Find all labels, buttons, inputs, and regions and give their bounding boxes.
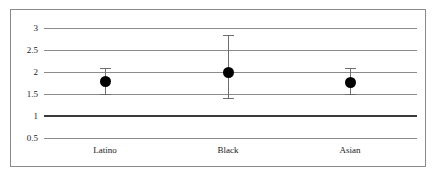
error-bar-cap-lower bbox=[100, 94, 111, 95]
x-axis-tick-label: Asian bbox=[305, 145, 395, 155]
gridline bbox=[44, 50, 417, 51]
data-point-marker bbox=[100, 76, 111, 87]
y-axis-tick-label: 2.5 bbox=[4, 45, 38, 55]
y-axis-tick-label: 0.5 bbox=[4, 133, 38, 143]
error-bar-cap-upper bbox=[100, 68, 111, 69]
gridline bbox=[44, 138, 417, 139]
y-axis-tick-label: 2 bbox=[4, 67, 38, 77]
reference-line bbox=[44, 115, 417, 117]
gridline bbox=[44, 28, 417, 29]
error-bar-cap-upper bbox=[223, 35, 234, 36]
y-axis-tick-label: 1 bbox=[4, 111, 38, 121]
x-axis-tick-label: Black bbox=[183, 145, 273, 155]
x-axis-tick-label: Latino bbox=[60, 145, 150, 155]
error-bar-cap-lower bbox=[223, 98, 234, 99]
chart-figure: 32.521.510.5LatinoBlackAsian bbox=[0, 0, 437, 179]
error-bar-cap-lower bbox=[345, 94, 356, 95]
y-axis-tick-label: 3 bbox=[4, 23, 38, 33]
plot-area: 32.521.510.5LatinoBlackAsian bbox=[0, 0, 437, 179]
data-point-marker bbox=[223, 67, 234, 78]
error-bar-cap-upper bbox=[345, 68, 356, 69]
y-axis-tick-label: 1.5 bbox=[4, 89, 38, 99]
data-point-marker bbox=[345, 77, 356, 88]
